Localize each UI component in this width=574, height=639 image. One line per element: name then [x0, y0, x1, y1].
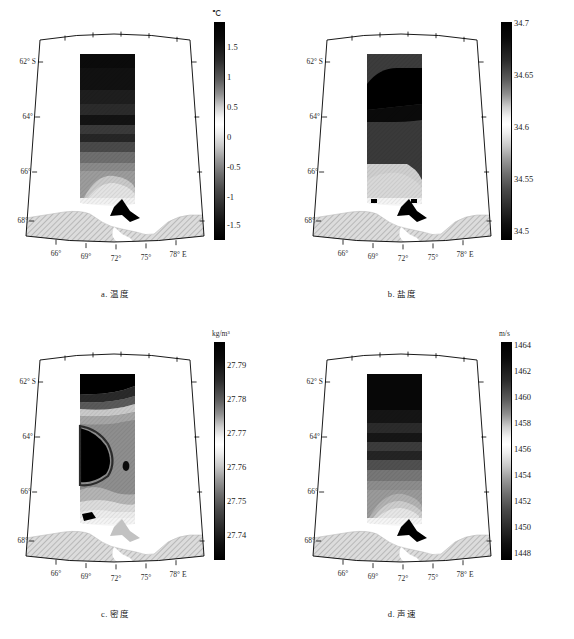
lat-label-66: 66° [0, 167, 31, 176]
lat-label-62: 62° S [0, 377, 36, 386]
lat-label-66: 66° [283, 487, 318, 496]
cbar-tick-d-0: 1464 [514, 340, 531, 350]
colorbar-gradient-b [501, 22, 512, 240]
lat-label-64: 64° [285, 112, 320, 121]
lon-label-72: 72° [389, 254, 417, 263]
lat-label-68: 68° [280, 536, 315, 545]
colorbar-ticks-b: 34.7 34.65 34.6 34.55 34.5 [514, 22, 562, 240]
lon-label-69: 69° [72, 252, 100, 261]
lon-label-66: 66° [329, 569, 357, 578]
lon-label-72: 72° [102, 574, 130, 583]
lat-label-68: 68° [0, 536, 28, 545]
cbar-tick-a-2: 0.5 [227, 102, 238, 112]
map-b: 62° S 64° 66° 68° 66° 69° 72° 75° 78° E [305, 22, 495, 262]
lat-label-62: 62° S [285, 57, 323, 66]
map-c-svg [18, 342, 208, 582]
cbar-tick-b-1: 34.65 [514, 70, 533, 80]
panel-caption-a: a. 温度 [0, 287, 230, 299]
lat-label-68: 68° [280, 216, 315, 225]
panel-temperature: 62° S 64° 66° 68° 66° 69° 72° 75° 78° E … [0, 0, 287, 319]
lat-label-64: 64° [285, 432, 320, 441]
cbar-tick-d-3: 1458 [514, 418, 531, 428]
cbar-tick-a-5: -1 [227, 192, 234, 202]
panel-sound-speed: 62° S 64° 66° 68° 66° 69° 72° 75° 78° E … [287, 320, 574, 639]
map-a: 62° S 64° 66° 68° 66° 69° 72° 75° 78° E [18, 22, 208, 262]
lon-label-66: 66° [329, 249, 357, 258]
lon-label-72: 72° [389, 574, 417, 583]
lat-label-62: 62° S [285, 377, 323, 386]
cbar-tick-b-4: 34.5 [514, 226, 529, 236]
lat-label-66: 66° [0, 487, 31, 496]
lon-label-66: 66° [42, 249, 70, 258]
map-d: 62° S 64° 66° 68° 66° 69° 72° 75° 78° E [305, 342, 495, 582]
cbar-tick-a-4: -0.5 [227, 162, 240, 172]
data-swath-b [367, 54, 422, 206]
colorbar-unit-c: kg/m³ [212, 329, 230, 338]
cbar-tick-a-6: -1.5 [227, 220, 240, 230]
cbar-tick-d-5: 1454 [514, 470, 531, 480]
cbar-tick-c-5: 27.74 [227, 530, 246, 540]
colorbar-gradient-a [214, 22, 225, 240]
cbar-tick-c-1: 27.78 [227, 394, 246, 404]
lon-label-75: 75° [419, 253, 447, 262]
data-swath-a [80, 54, 135, 206]
cbar-tick-d-7: 1450 [514, 522, 531, 532]
lon-label-75: 75° [132, 573, 160, 582]
lon-label-69: 69° [72, 572, 100, 581]
colorbar-unit-d: m/s [499, 329, 510, 338]
lat-label-62: 62° S [0, 57, 36, 66]
lon-label-78: 78° E [447, 570, 483, 579]
lon-label-78: 78° E [447, 250, 483, 259]
lat-label-66: 66° [283, 167, 318, 176]
lat-label-64: 64° [0, 432, 33, 441]
lon-label-78: 78° E [160, 570, 196, 579]
colorbar-unit-a: ℃ [212, 9, 221, 18]
map-a-svg [18, 22, 208, 262]
panel-caption-c: c. 密度 [0, 607, 230, 619]
cbar-tick-d-6: 1452 [514, 496, 531, 506]
data-swath-c [80, 374, 135, 526]
cbar-tick-d-8: 1448 [514, 548, 531, 558]
colorbar-ticks-d: 1464 1462 1460 1458 1456 1454 1452 1450 … [514, 342, 562, 560]
cbar-tick-a-0: 1.5 [227, 42, 238, 52]
cbar-tick-c-0: 27.79 [227, 360, 246, 370]
cbar-tick-d-1: 1462 [514, 366, 531, 376]
cbar-tick-b-2: 34.6 [514, 122, 529, 132]
lon-label-75: 75° [419, 573, 447, 582]
lat-label-64: 64° [0, 112, 33, 121]
colorbar-gradient-d [501, 342, 512, 560]
cbar-tick-d-2: 1460 [514, 392, 531, 402]
cbar-tick-b-3: 34.55 [514, 174, 533, 184]
colorbar-ticks-a: 1.5 1 0.5 0 -0.5 -1 -1.5 [227, 22, 275, 240]
map-c: 62° S 64° 66° 68° 66° 69° 72° 75° 78° E [18, 342, 208, 582]
panel-caption-d: d. 声速 [287, 607, 517, 619]
cbar-tick-b-0: 34.7 [514, 18, 529, 28]
colorbar-ticks-c: 27.79 27.78 27.77 27.76 27.75 27.74 [227, 342, 275, 560]
lon-label-69: 69° [359, 252, 387, 261]
lat-label-68: 68° [0, 216, 28, 225]
lon-label-72: 72° [102, 254, 130, 263]
panel-salinity: 62° S 64° 66° 68° 66° 69° 72° 75° 78° E … [287, 0, 574, 319]
cbar-tick-a-3: 0 [227, 132, 231, 142]
cbar-tick-c-3: 27.76 [227, 462, 246, 472]
cbar-tick-c-4: 27.75 [227, 496, 246, 506]
cbar-tick-a-1: 1 [227, 72, 231, 82]
panel-caption-b: b. 盐度 [287, 287, 517, 299]
panel-density: 62° S 64° 66° 68° 66° 69° 72° 75° 78° E … [0, 320, 287, 639]
lon-label-69: 69° [359, 572, 387, 581]
lon-label-78: 78° E [160, 250, 196, 259]
map-d-svg [305, 342, 495, 582]
cbar-tick-d-4: 1456 [514, 444, 531, 454]
colorbar-gradient-c [214, 342, 225, 560]
lon-label-75: 75° [132, 253, 160, 262]
cbar-tick-c-2: 27.77 [227, 428, 246, 438]
map-b-svg [305, 22, 495, 262]
data-swath-d [367, 374, 422, 526]
lon-label-66: 66° [42, 569, 70, 578]
